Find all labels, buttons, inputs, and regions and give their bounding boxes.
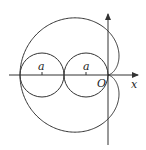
x-axis-label: x (131, 78, 138, 91)
cardioid-diagram: a a O x (0, 0, 146, 150)
origin-label: O (97, 77, 106, 90)
right-circle-label: a (83, 60, 90, 73)
left-circle-label: a (38, 60, 45, 73)
